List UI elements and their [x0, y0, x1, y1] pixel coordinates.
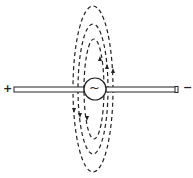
arrow-up-icon — [105, 64, 109, 69]
rod-left — [14, 87, 84, 92]
arrow-up-icon — [111, 68, 115, 73]
arrow-down-icon — [78, 113, 82, 118]
rod-right — [106, 87, 178, 93]
arrow-down-icon — [85, 116, 89, 121]
arrows-down — [72, 108, 89, 121]
arrow-down-icon — [72, 108, 76, 113]
ac-source-symbol: ~ — [89, 80, 100, 95]
negative-terminal-label: − — [183, 82, 192, 93]
positive-terminal-label: + — [3, 83, 12, 94]
